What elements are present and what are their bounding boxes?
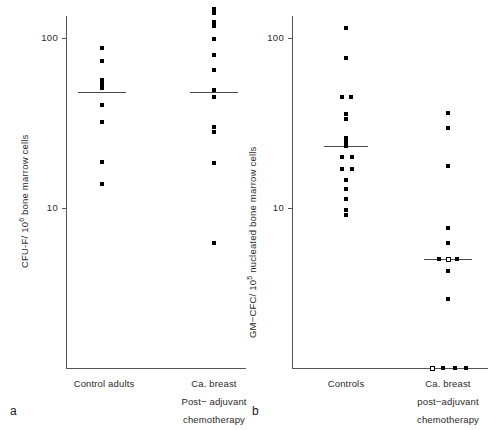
data-point [344,187,347,190]
panel-b-xlabel-cabreast-line3: chemotherapy [417,414,479,425]
data-point-zero-open [430,366,435,371]
data-point [212,130,215,133]
panel-a-median-control [78,92,126,93]
data-point [344,178,347,181]
data-point [340,95,343,98]
data-point [100,78,103,81]
panel-b-yticklabel-100: 100 [248,32,284,43]
panel-b-letter: b [252,404,259,418]
data-point [212,53,215,56]
panel-b-ylabel-exponent: 5 [246,276,253,280]
data-point [344,213,347,216]
panel-b-ytick-100 [288,38,293,39]
data-point-open [446,257,451,262]
data-point [344,144,347,147]
panel-a-x-axis [66,368,246,369]
panel-b: 100 10 GM−CFC/ 105 nucleated bone marrow… [246,0,493,430]
panel-b-xlabel-cabreast-line1: Ca. breast [425,378,470,389]
data-point [446,297,449,300]
data-point [100,103,103,106]
data-point [446,111,449,114]
panel-b-y-axis [292,16,293,368]
panel-a-ylabel-prefix: CFU-F/ 10 [19,222,30,268]
panel-a-ylabel-suffix: bone marrow cells [19,134,30,217]
data-point [446,226,449,229]
panel-b-ylabel-suffix: nucleated bone marrow cells [247,147,258,276]
panel-b-y-axis-label: GM−CFC/ 105 nucleated bone marrow cells [246,147,258,339]
figure-root: 100 10 CFU-F/ 106 bone marrow cells [0,0,493,430]
data-point [212,241,215,244]
panel-a-y-axis [66,16,67,368]
data-point [344,26,347,29]
panel-a-y-axis-label: CFU-F/ 106 bone marrow cells [18,134,30,268]
panel-a-xlabel-cabreast-line1: Ca. breast [191,378,236,389]
data-point [100,86,103,89]
data-point [340,167,343,170]
data-point [437,257,440,260]
data-point [212,20,215,23]
data-point [350,155,353,158]
panel-b-xlabel-cabreast-line2: post−adjuvant [417,396,478,407]
data-point [212,161,215,164]
data-point [446,241,449,244]
panel-b-x-axis [292,368,488,369]
data-point-zero [453,366,456,369]
data-point [344,117,347,120]
panel-a-letter: a [10,404,17,418]
data-point [349,95,352,98]
data-point [100,82,103,85]
panel-b-ytick-10 [288,208,293,209]
data-point [446,164,449,167]
data-point [344,140,347,143]
panel-a-xlabel-cabreast-line3: chemotherapy [183,414,245,425]
data-point [100,59,103,62]
data-point-zero [464,366,467,369]
panel-b-xlabel-controls: Controls [328,378,365,389]
data-point [100,160,103,163]
data-point [212,7,215,10]
data-point [100,46,103,49]
data-point [212,24,215,27]
data-point [340,155,343,158]
panel-a-xlabel-cabreast-line2: Post− adjuvant [181,396,246,407]
data-point [344,56,347,59]
panel-a-ytick-100 [62,38,67,39]
data-point [344,197,347,200]
data-point [212,37,215,40]
data-point-zero [441,366,444,369]
data-point [350,167,353,170]
data-point [100,182,103,185]
data-point [212,125,215,128]
data-point [344,136,347,139]
panel-a-yticklabel-100: 100 [22,32,58,43]
data-point [344,208,347,211]
data-point [344,112,347,115]
data-point [212,11,215,14]
panel-b-ylabel-prefix: GM−CFC/ 10 [247,280,258,338]
panel-a: 100 10 CFU-F/ 106 bone marrow cells [0,0,247,430]
data-point [446,126,449,129]
data-point [212,95,215,98]
data-point [212,88,215,91]
data-point [212,68,215,71]
data-point [446,269,449,272]
panel-a-ytick-10 [62,208,67,209]
data-point [100,120,103,123]
panel-a-xlabel-control: Control adults [74,378,135,389]
panel-a-ylabel-exponent: 6 [18,218,25,222]
data-point [455,257,458,260]
